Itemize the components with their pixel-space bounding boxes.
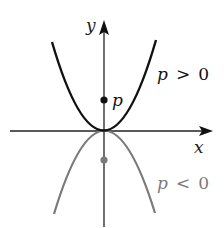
focus-point-negative [100, 156, 107, 163]
downward-condition-label: p < 0 [157, 173, 209, 193]
parabola-diagram: y x p p > 0 p < 0 [0, 0, 224, 228]
focus-label: p [112, 90, 123, 110]
upward-condition-label: p > 0 [157, 64, 209, 84]
y-axis-label: y [85, 15, 96, 35]
focus-point-positive [100, 96, 107, 103]
x-axis-label: x [194, 137, 204, 157]
